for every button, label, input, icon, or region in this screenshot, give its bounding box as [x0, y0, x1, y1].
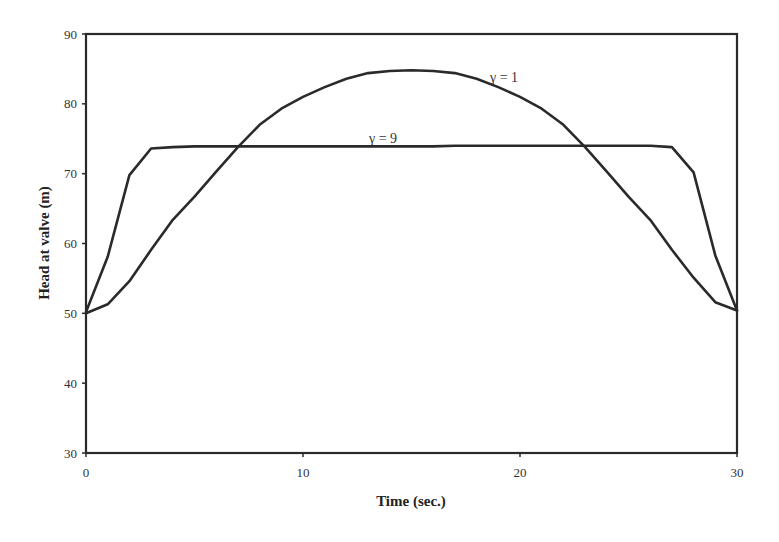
series-lines: [86, 70, 737, 313]
x-tick-label: 20: [514, 465, 527, 480]
y-tick-label: 60: [64, 236, 77, 251]
y-tick-label: 30: [64, 446, 77, 461]
plot-border: [86, 34, 737, 453]
y-tick-label: 80: [64, 96, 77, 111]
line-chart: 30405060708090 0102030 Time (sec.) Head …: [0, 0, 779, 542]
y-axis-title: Head at valve (m): [36, 186, 53, 300]
x-tick-label: 30: [731, 465, 744, 480]
series-label-gamma-1: γ = 1: [489, 70, 518, 85]
y-axis: 30405060708090: [64, 27, 86, 461]
y-tick-label: 50: [64, 306, 77, 321]
x-tick-label: 10: [297, 465, 310, 480]
plot-frame: [86, 34, 737, 453]
series-label-gamma-9: γ = 9: [368, 131, 397, 146]
x-axis-title: Time (sec.): [376, 493, 446, 510]
y-tick-label: 90: [64, 27, 77, 42]
series-line-gamma-9: [86, 146, 737, 312]
series-line-gamma-1: [86, 70, 737, 313]
x-tick-label: 0: [83, 465, 90, 480]
x-axis: 0102030: [83, 453, 744, 480]
y-tick-label: 70: [64, 166, 77, 181]
y-tick-label: 40: [64, 376, 77, 391]
